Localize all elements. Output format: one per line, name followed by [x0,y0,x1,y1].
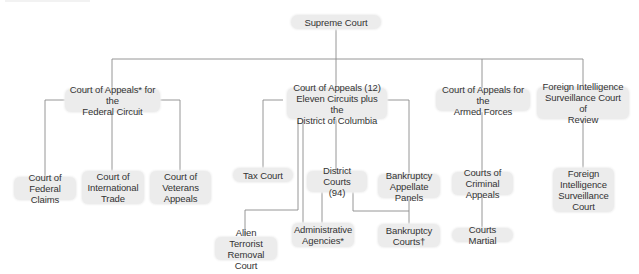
node-courts-martial: Courts Martial [452,228,513,242]
node-administrative-agencies: Administrative Agencies* [292,223,354,247]
node-court-of-appeals-12: Court of Appeals (12) Eleven Circuits pl… [287,88,387,119]
node-foreign-intelligence-surveillance-court: Foreign Intelligence Surveillance Court [553,168,614,212]
node-fisc-of-review: Foreign Intelligence Surveillance Court … [537,87,629,119]
node-court-of-veterans-appeals: Court of Veterans Appeals [150,171,211,204]
node-bankruptcy-appellate-panels: Bankruptcy Appellate Panels [378,174,440,198]
node-court-of-appeals-federal-circuit: Court of Appeals* for the Federal Circui… [65,89,160,112]
node-court-of-federal-claims: Court of Federal Claims [14,177,76,200]
node-bankruptcy-courts: Bankruptcy Courts† [378,224,440,247]
node-court-of-appeals-armed-forces: Court of Appeals for the Armed Forces [436,89,530,111]
scan-artifact [5,0,90,2]
node-district-courts: District Courts (94) [307,171,367,192]
court-system-diagram: Supreme Court Court of Appeals* for the … [0,0,639,274]
node-tax-court: Tax Court [233,168,293,182]
node-courts-of-criminal-appeals: Courts of Criminal Appeals [452,172,513,195]
node-court-of-international-trade: Court of International Trade [82,171,144,204]
node-supreme-court: Supreme Court [291,15,381,29]
node-alien-terrorist-removal-court: Alien Terrorist Removal Court [215,237,277,260]
